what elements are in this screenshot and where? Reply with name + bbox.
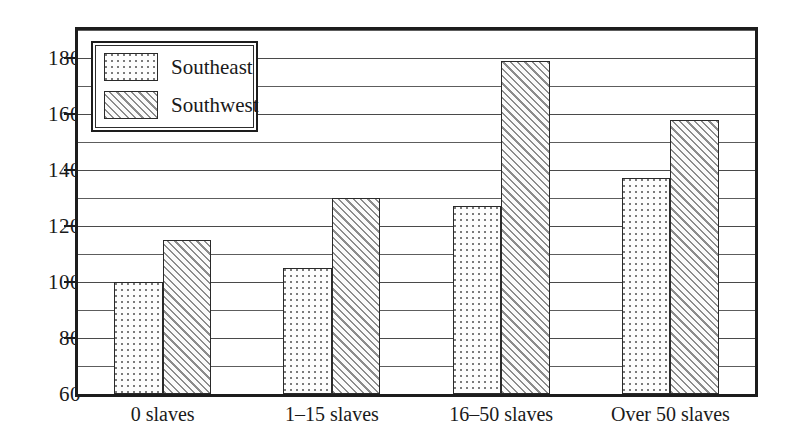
- x-tick-label-2: 16–50 slaves: [449, 404, 553, 424]
- bar-southwest-0: [163, 240, 212, 394]
- legend: Southeast Southwest: [91, 41, 258, 132]
- bar-southeast-0: [114, 282, 163, 394]
- plot-area: Southeast Southwest: [75, 27, 758, 397]
- legend-item-southeast: Southeast: [104, 53, 253, 81]
- bar-southwest-3: [670, 120, 719, 394]
- bar-southeast-1: [283, 268, 332, 394]
- legend-label-southeast: Southeast: [171, 57, 253, 78]
- bar-southeast-2: [453, 206, 502, 394]
- legend-inner-border: Southeast Southwest: [95, 45, 254, 128]
- bar-southwest-2: [501, 61, 550, 394]
- x-tick-label-1: 1–15 slaves: [285, 404, 379, 424]
- legend-item-southwest: Southwest: [104, 91, 259, 119]
- plot-inner: Southeast Southwest: [78, 30, 755, 394]
- legend-swatch-southwest-icon: [104, 91, 158, 119]
- gridline-150: [78, 142, 755, 143]
- bar-chart: 6080100120140160180 Southeast Southwest: [0, 0, 797, 439]
- legend-swatch-southeast-icon: [104, 53, 158, 81]
- gridline-140: [78, 170, 755, 171]
- legend-label-southwest: Southwest: [171, 95, 259, 116]
- gridline-190: [78, 30, 755, 31]
- x-tick-label-3: Over 50 slaves: [611, 404, 730, 424]
- x-tick-label-0: 0 slaves: [131, 404, 195, 424]
- bar-southeast-3: [622, 178, 671, 394]
- bar-southwest-1: [332, 198, 381, 394]
